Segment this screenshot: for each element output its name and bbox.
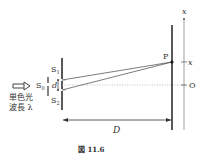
source-label-line1: 単色光 xyxy=(9,92,33,102)
figure-caption: 図 11.6 xyxy=(78,145,105,154)
distance-label: D xyxy=(112,125,120,135)
ray-s1-p xyxy=(62,62,172,80)
source-label-line2: 波長 λ xyxy=(9,102,33,112)
double-slit-diagram: 単色光 波長 λ S0 S1 S2 d P x x O D 図 11.6 xyxy=(0,0,206,161)
ray-s2-p xyxy=(62,62,172,90)
x-axis-label: x xyxy=(182,7,187,16)
point-p xyxy=(171,61,174,64)
light-arrow-icon xyxy=(13,82,30,90)
origin-label: O xyxy=(189,81,196,90)
s1-label: S1 xyxy=(51,65,60,75)
s0-label: S0 xyxy=(36,81,45,91)
d-label: d xyxy=(52,81,57,90)
p-label: P xyxy=(163,52,169,61)
distance-arrow xyxy=(63,118,171,122)
s2-label: S2 xyxy=(51,96,60,106)
x-mark-label: x xyxy=(188,58,193,67)
